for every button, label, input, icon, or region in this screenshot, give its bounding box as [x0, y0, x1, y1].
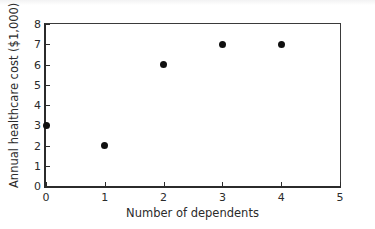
scan-edge-strip	[0, 0, 375, 5]
y-axis-tick-label: 1	[34, 160, 41, 171]
y-axis-tick	[45, 105, 50, 106]
y-axis-tick	[45, 85, 50, 86]
y-axis-tick-label: 5	[34, 79, 41, 90]
x-axis-tick-label: 0	[43, 192, 50, 203]
data-point-marker	[43, 122, 50, 129]
y-axis-tick	[45, 44, 50, 45]
y-axis-tick-label: 3	[34, 120, 41, 131]
chart-page: 012345678012345 Annual healthcare cost (…	[0, 0, 375, 229]
x-axis-tick-label: 1	[101, 192, 108, 203]
y-axis-tick-label: 0	[34, 181, 41, 192]
x-axis-tick-label: 4	[278, 192, 285, 203]
y-axis-tick-label: 6	[34, 59, 41, 70]
plot-area: 012345678012345	[44, 23, 341, 188]
x-axis-tick	[222, 182, 223, 187]
x-axis-tick	[105, 182, 106, 187]
x-axis-tick	[164, 182, 165, 187]
x-axis-tick-label: 5	[337, 192, 344, 203]
y-axis-tick-label: 4	[34, 100, 41, 111]
x-axis-tick-label: 2	[160, 192, 167, 203]
x-axis-tick	[46, 182, 47, 187]
x-axis-tick	[340, 182, 341, 187]
x-axis-tick	[281, 182, 282, 187]
y-axis-tick-label: 2	[34, 140, 41, 151]
x-axis-tick-label: 3	[219, 192, 226, 203]
data-point-marker	[219, 41, 226, 48]
y-axis-tick-label: 8	[34, 19, 41, 30]
y-axis-tick	[45, 146, 50, 147]
y-axis-tick-label: 7	[34, 39, 41, 50]
x-axis-title: Number of dependents	[44, 206, 341, 220]
data-point-marker	[160, 61, 167, 68]
y-axis-tick	[45, 166, 50, 167]
y-axis-title: Annual healthcare cost ($1,000)	[6, 23, 22, 188]
data-point-marker	[278, 41, 285, 48]
data-point-marker	[101, 142, 108, 149]
y-axis-tick	[45, 24, 50, 25]
y-axis-tick	[45, 65, 50, 66]
